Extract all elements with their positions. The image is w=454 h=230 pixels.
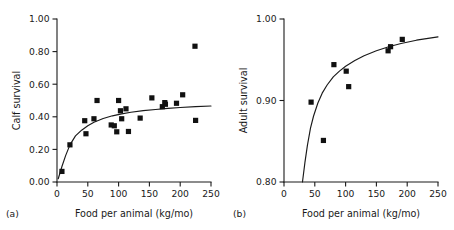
- fit-curve-a: [58, 106, 211, 179]
- y-tick-label-b-0: 0.80: [256, 176, 277, 187]
- data-point-b-6: [388, 44, 393, 49]
- data-point-a-4: [91, 116, 96, 121]
- data-point-a-10: [118, 108, 123, 113]
- data-point-b-7: [400, 37, 405, 42]
- x-tick-label-b-0: 0: [281, 188, 287, 199]
- x-tick-label-b-5: 250: [429, 188, 447, 199]
- data-point-a-8: [114, 129, 119, 134]
- data-point-a-11: [119, 116, 124, 121]
- data-point-a-7: [112, 123, 117, 128]
- data-point-a-19: [174, 101, 179, 106]
- data-point-a-3: [83, 131, 88, 136]
- y-tick-label-b-2: 1.00: [256, 13, 277, 24]
- data-point-a-2: [82, 118, 87, 123]
- data-point-a-1: [67, 142, 72, 147]
- y-tick-label-a-3: 0.60: [29, 79, 50, 90]
- data-point-b-4: [346, 84, 351, 89]
- data-point-a-12: [123, 106, 128, 111]
- data-point-a-9: [116, 98, 121, 103]
- figure-scatter-pair: 0.000.200.400.600.801.00050100150200250F…: [0, 0, 454, 230]
- data-point-a-22: [193, 118, 198, 123]
- x-tick-label-a-3: 150: [141, 188, 159, 199]
- data-point-b-0: [309, 100, 314, 105]
- plot-area-a: 0.000.200.400.600.801.00050100150200250F…: [0, 0, 227, 230]
- data-point-b-2: [331, 62, 336, 67]
- data-point-a-21: [192, 44, 197, 49]
- y-tick-label-a-1: 0.20: [29, 144, 50, 155]
- data-point-b-3: [344, 69, 349, 74]
- data-point-a-20: [180, 92, 185, 97]
- x-tick-label-a-1: 50: [82, 188, 94, 199]
- data-point-a-14: [138, 116, 143, 121]
- y-axis-title-b: Adult survival: [238, 68, 249, 134]
- plot-area-b: 0.800.901.00050100150200250Food per anim…: [227, 0, 454, 230]
- x-tick-label-b-4: 200: [398, 188, 416, 199]
- x-tick-label-a-4: 200: [171, 188, 189, 199]
- x-tick-label-b-2: 100: [337, 188, 355, 199]
- data-point-a-5: [94, 98, 99, 103]
- y-tick-label-a-2: 0.40: [29, 111, 50, 122]
- data-point-a-15: [149, 95, 154, 100]
- x-tick-label-a-5: 250: [202, 188, 220, 199]
- x-tick-label-b-1: 50: [309, 188, 321, 199]
- panel-a: 0.000.200.400.600.801.00050100150200250F…: [0, 0, 227, 230]
- x-axis-title-a: Food per animal (kg/mo): [75, 208, 193, 219]
- y-tick-label-a-4: 0.80: [29, 46, 50, 57]
- panel-letter-b: (b): [233, 208, 246, 219]
- y-tick-label-b-1: 0.90: [256, 95, 277, 106]
- data-point-a-13: [126, 129, 131, 134]
- panel-b: 0.800.901.00050100150200250Food per anim…: [227, 0, 454, 230]
- y-tick-label-a-5: 1.00: [29, 13, 50, 24]
- fit-curve-b: [302, 37, 438, 182]
- data-point-a-0: [59, 169, 64, 174]
- panel-letter-a: (a): [6, 208, 19, 219]
- x-tick-label-a-2: 100: [110, 188, 128, 199]
- x-tick-label-b-3: 150: [368, 188, 386, 199]
- data-point-a-18: [163, 102, 168, 107]
- data-point-b-1: [321, 138, 326, 143]
- x-axis-title-b: Food per animal (kg/mo): [302, 208, 420, 219]
- y-tick-label-a-0: 0.00: [29, 176, 50, 187]
- x-tick-label-a-0: 0: [54, 188, 60, 199]
- y-axis-title-a: Calf survival: [11, 71, 22, 130]
